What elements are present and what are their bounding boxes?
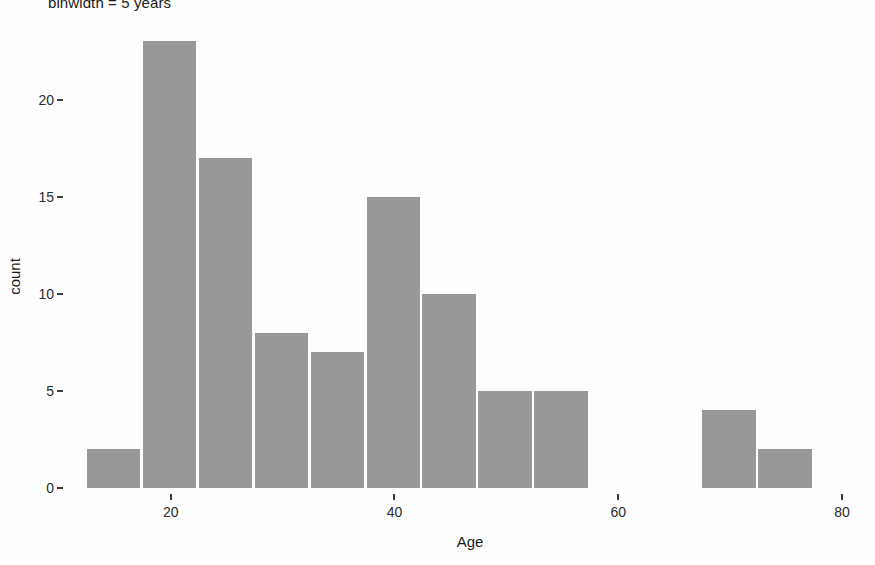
histogram-bar — [143, 41, 196, 488]
histogram-bar — [199, 158, 252, 488]
y-axis-title: count — [6, 242, 23, 312]
histogram-bar — [534, 391, 587, 488]
y-tick-label: 5 — [46, 383, 54, 399]
y-tick-mark — [57, 487, 63, 489]
x-tick-label: 20 — [163, 504, 179, 520]
histogram-bar — [255, 333, 308, 488]
y-tick-mark — [57, 99, 63, 101]
histogram-chart: binwidth = 5 years count 05101520 Age 20… — [0, 0, 875, 565]
y-tick-label: 15 — [38, 189, 54, 205]
x-axis-title: Age — [70, 533, 870, 550]
y-tick-label: 0 — [46, 480, 54, 496]
histogram-bar — [702, 410, 755, 488]
histogram-bar — [478, 391, 531, 488]
y-tick-label: 20 — [38, 92, 54, 108]
x-tick-label: 60 — [610, 504, 626, 520]
x-tick-label: 40 — [387, 504, 403, 520]
x-tick-label: 80 — [834, 504, 850, 520]
y-axis: count 05101520 — [0, 0, 70, 565]
histogram-bar — [422, 294, 475, 488]
y-tick-mark — [57, 196, 63, 198]
x-axis: Age 20406080 — [70, 488, 870, 565]
histogram-bar — [311, 352, 364, 488]
histogram-bar — [87, 449, 140, 488]
y-tick-mark — [57, 293, 63, 295]
y-tick-label: 10 — [38, 286, 54, 302]
x-tick-mark — [170, 494, 172, 500]
histogram-bar — [758, 449, 811, 488]
histogram-bar — [367, 197, 420, 488]
plot-panel — [70, 22, 870, 488]
x-tick-mark — [841, 494, 843, 500]
bars-layer — [70, 22, 870, 488]
y-tick-mark — [57, 390, 63, 392]
x-tick-mark — [393, 494, 395, 500]
x-tick-mark — [617, 494, 619, 500]
